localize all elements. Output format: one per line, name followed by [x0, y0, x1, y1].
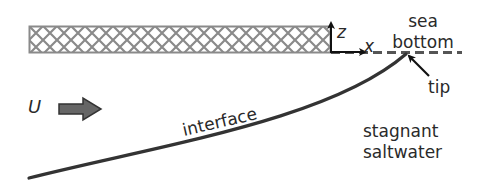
velocity-label: U	[28, 96, 41, 117]
tip-pointer-arrow	[409, 56, 429, 76]
saltwater-label: saltwater	[363, 142, 442, 162]
flow-arrow-icon	[59, 98, 101, 120]
hatched-layer	[29, 26, 331, 53]
stagnant-label: stagnant	[363, 121, 439, 141]
tip-label: tip	[428, 77, 450, 97]
axis-z-label: z	[336, 22, 347, 42]
estuary-diagram: z x sea bottom tip U interface stagnant …	[0, 0, 483, 180]
bottom-label: bottom	[392, 32, 453, 52]
sea-label: sea	[408, 11, 438, 31]
axis-x-label: x	[363, 36, 375, 56]
